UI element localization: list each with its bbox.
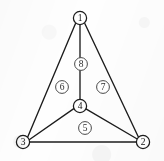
face-label-6[interactable]: 6 <box>56 81 69 94</box>
vertex-label-3: 3 <box>21 137 26 147</box>
vertex-label-1: 1 <box>78 13 83 23</box>
edge-1-2 <box>85 24 139 138</box>
face-label-5[interactable]: 5 <box>79 122 92 135</box>
face-label-6-text: 6 <box>60 82 65 92</box>
vertex-label-2: 2 <box>141 137 146 147</box>
vertex-node-1[interactable]: 1 <box>73 11 86 24</box>
vertex-label-4: 4 <box>78 101 83 111</box>
figure-canvas: 5 6 7 8 1 2 <box>0 0 164 161</box>
vertex-node-2[interactable]: 2 <box>136 135 149 148</box>
edge-3-4 <box>29 109 74 140</box>
vertex-node-4[interactable]: 4 <box>73 99 86 112</box>
edge-1-3 <box>28 24 76 138</box>
face-label-7-text: 7 <box>101 82 106 92</box>
face-label-5-text: 5 <box>83 123 88 133</box>
edge-4-2 <box>86 109 137 139</box>
vertex-node-3[interactable]: 3 <box>16 135 29 148</box>
planar-graph-diagram: 5 6 7 8 1 2 <box>0 0 164 161</box>
face-label-7[interactable]: 7 <box>97 81 110 94</box>
face-label-8[interactable]: 8 <box>75 58 88 71</box>
face-label-8-text: 8 <box>79 59 84 69</box>
face-label-group: 5 6 7 8 <box>56 58 110 135</box>
